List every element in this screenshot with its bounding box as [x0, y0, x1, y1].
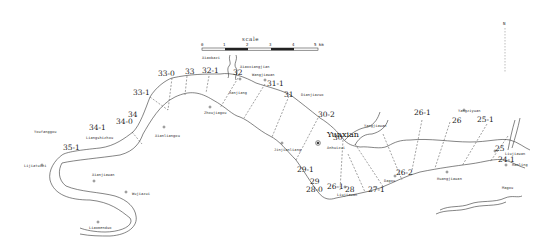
river-downstream-south — [336, 159, 525, 198]
scale-tick-1: 1 — [223, 43, 225, 47]
section-label: 30-2 — [318, 111, 335, 119]
scale-bar — [202, 48, 318, 50]
place-label: Liangshizhou — [86, 137, 113, 141]
section-label: 32 — [233, 69, 243, 77]
section-label: 29-1 — [297, 166, 314, 174]
place-label: Huangjiawan — [437, 178, 462, 182]
section-label: 31-1 — [267, 80, 284, 88]
section-label: 31 — [284, 91, 294, 99]
scale-tick-5: 5 km — [314, 43, 324, 47]
place-label: Liujiawan — [505, 153, 525, 157]
city-label-yunxian: Yunxian — [327, 131, 359, 139]
place-label: Xiaobazi — [202, 57, 220, 61]
place-label: Magou — [502, 187, 513, 191]
place-label: Yangjiawan — [364, 125, 387, 129]
section-label: 34-1 — [89, 124, 106, 132]
section-label: 33-1 — [133, 89, 150, 97]
river-south-bank — [62, 93, 336, 199]
place-label: Anhuizui — [327, 147, 345, 151]
place-label: Yangziyuan — [458, 110, 481, 114]
section-label: 33 — [185, 68, 195, 76]
scale-tick-0: 0 — [201, 43, 203, 47]
place-label: Xianliangou — [155, 135, 180, 139]
section-label: 26 — [452, 117, 462, 125]
scale-title: scale — [242, 37, 259, 43]
place-label: Wangjiawan — [252, 74, 275, 78]
section-label: 28-0 — [306, 186, 323, 194]
scale-tick-4: 4 — [292, 43, 294, 47]
section-label: 34-0 — [116, 118, 133, 126]
place-label: Wujiazui — [132, 193, 150, 197]
north-label: N — [503, 22, 505, 26]
scale-tick-2: 2 — [246, 43, 248, 47]
place-label: Hanjiang — [229, 92, 247, 96]
section-label: 35-1 — [63, 144, 80, 152]
place-label: Lijiatuizi — [24, 165, 47, 169]
section-label: 32-1 — [202, 67, 219, 75]
place-label: Jinjianliang — [274, 149, 301, 153]
place-label: Liaomenduo — [89, 227, 112, 231]
place-label: Dianjiazuo — [301, 94, 324, 98]
river-map — [0, 0, 556, 238]
place-label: Hanling — [512, 164, 528, 168]
river-upstream-loop — [50, 155, 131, 232]
place-label: Dagou — [384, 180, 395, 184]
section-label: 26-1 — [414, 109, 431, 117]
place-label: Xianjiawan — [92, 174, 115, 178]
section-label: 25 — [495, 145, 505, 153]
place-label: Zhoujiagou — [204, 112, 227, 116]
section-label: 33-0 — [158, 70, 175, 78]
section-label: 26-2 — [396, 169, 413, 177]
scale-tick-3: 3 — [269, 43, 271, 47]
section-label: 25-1 — [477, 116, 494, 124]
place-label: Xiaoxiangjian — [240, 66, 269, 70]
place-label: Liujiawan — [337, 194, 357, 198]
section-label: 27-1 — [368, 186, 385, 194]
section-label: 26-1 — [327, 183, 344, 191]
place-label: Youfanggou — [34, 131, 57, 135]
